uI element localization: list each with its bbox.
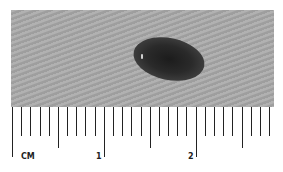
ruler-tick xyxy=(251,107,252,136)
ruler-tick xyxy=(168,107,169,136)
ruler-tick xyxy=(223,107,224,136)
ruler-tick xyxy=(214,107,215,136)
lesion-highlight xyxy=(141,54,143,59)
ruler-tick xyxy=(58,107,59,148)
ruler-tick xyxy=(260,107,261,136)
ruler-unit-label: CM xyxy=(21,153,35,161)
ruler-tick xyxy=(186,107,187,136)
lesion xyxy=(129,31,208,87)
ruler-tick xyxy=(49,107,50,136)
ruler-tick xyxy=(85,107,86,136)
ruler-tick xyxy=(113,107,114,136)
ruler-tick xyxy=(76,107,77,136)
ruler-tick xyxy=(67,107,68,136)
ruler-tick xyxy=(269,107,270,136)
ruler-label-1: 1 xyxy=(96,153,102,161)
skin-photo xyxy=(11,10,274,107)
ruler-tick xyxy=(122,107,123,136)
ruler-tick xyxy=(131,107,132,136)
ruler-tick xyxy=(150,107,151,148)
ruler-tick xyxy=(104,107,105,157)
ruler-tick xyxy=(205,107,206,136)
ruler-tick xyxy=(232,107,233,136)
ruler-tick xyxy=(159,107,160,136)
ruler-tick xyxy=(12,107,13,157)
ruler-tick xyxy=(196,107,197,157)
ruler-label-2: 2 xyxy=(188,153,194,161)
ruler-tick xyxy=(141,107,142,136)
ruler-tick xyxy=(40,107,41,136)
ruler-tick xyxy=(95,107,96,136)
ruler-tick xyxy=(30,107,31,136)
ruler-tick xyxy=(242,107,243,148)
ruler-tick xyxy=(21,107,22,136)
ruler-tick xyxy=(177,107,178,136)
